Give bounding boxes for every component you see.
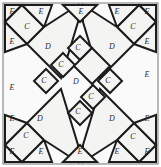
piece-label-f: F — [9, 147, 15, 156]
piece-label-d: D — [36, 114, 43, 123]
piece-label-d: D — [108, 42, 115, 51]
piece-label-f: F — [144, 147, 150, 156]
piece-label-d: D — [72, 77, 79, 86]
piece-label-e: E — [144, 114, 150, 123]
piece-label-c: C — [58, 60, 64, 69]
piece-label-d: D — [44, 42, 51, 51]
piece-label-d: D — [108, 114, 115, 123]
piece-label-e: E — [114, 7, 120, 16]
piece-label-e: E — [38, 147, 44, 156]
piece-label-c: C — [41, 76, 47, 85]
piece-label-c: C — [105, 76, 111, 85]
piece-label-e: E — [77, 147, 83, 156]
piece-label-e: E — [9, 83, 15, 92]
tiling-figure: FEECDEEFCEDEECCCDCCCDECFEEDECEF — [0, 0, 161, 167]
piece-label-e: E — [9, 114, 15, 123]
piece-label-c: C — [88, 92, 94, 101]
piece-label-e: E — [38, 7, 44, 16]
piece-label-e: E — [144, 70, 150, 79]
piece-label-c: C — [130, 132, 136, 141]
piece-label-c: C — [75, 43, 81, 52]
tiling-svg: FEECDEEFCEDEECCCDCCCDECFEEDECEF — [0, 0, 161, 167]
piece-label-e: E — [9, 37, 15, 46]
piece-label-e: E — [144, 37, 150, 46]
piece-label-f: F — [9, 7, 15, 16]
piece-label-c: C — [75, 107, 81, 116]
piece-label-e: E — [114, 147, 120, 156]
piece-label-c: C — [24, 22, 30, 31]
piece-label-c: C — [23, 131, 29, 140]
piece-label-e: E — [78, 7, 84, 16]
piece-label-f: F — [144, 7, 150, 16]
piece-label-c: C — [130, 22, 136, 31]
